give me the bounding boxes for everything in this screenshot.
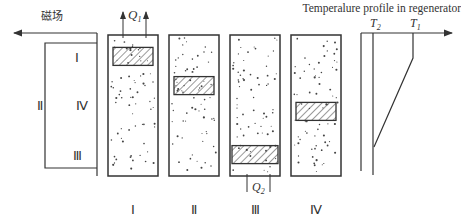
porous-particle	[323, 45, 325, 47]
porous-particle	[243, 60, 244, 61]
porous-particle	[334, 60, 335, 61]
porous-particle	[209, 97, 210, 98]
porous-particle	[130, 168, 132, 170]
porous-particle	[336, 61, 337, 62]
porous-particle	[113, 87, 115, 89]
porous-particle	[178, 161, 180, 163]
porous-particle	[264, 170, 265, 171]
porous-particle	[154, 126, 155, 127]
porous-particle	[319, 77, 320, 78]
porous-particle	[236, 107, 237, 108]
porous-particle	[232, 169, 234, 171]
porous-particle	[247, 51, 249, 53]
porous-particle	[260, 126, 261, 127]
porous-particle	[182, 137, 183, 138]
porous-particle	[248, 126, 250, 128]
porous-particle	[236, 123, 238, 125]
porous-particle	[312, 156, 314, 158]
porous-particle	[120, 90, 122, 92]
porous-particle	[276, 39, 277, 40]
porous-particle	[318, 62, 320, 64]
porous-particle	[196, 66, 198, 68]
porous-particle	[335, 69, 337, 71]
porous-particle	[240, 47, 241, 48]
loop-label-left: Ⅱ	[37, 98, 43, 113]
porous-particle	[255, 123, 256, 124]
porous-particle	[332, 67, 333, 68]
porous-particle	[243, 69, 245, 71]
regenerator-column-1: Ⅰ	[108, 35, 158, 217]
porous-particle	[204, 99, 206, 101]
porous-particle	[115, 97, 117, 99]
regenerator-column-4: Ⅳ	[291, 35, 341, 217]
porous-particle	[114, 162, 115, 163]
porous-particle	[114, 40, 116, 42]
porous-particle	[326, 41, 327, 42]
porous-particle	[315, 93, 317, 95]
porous-particle	[269, 166, 270, 167]
porous-particle	[191, 107, 193, 109]
porous-particle	[297, 142, 299, 144]
porous-particle	[204, 162, 206, 164]
porous-particle	[182, 44, 183, 45]
magnetic-refrigeration-cycle-diagram: 磁场 Ⅰ Ⅱ Ⅳ Ⅲ ⅠⅡⅢⅣ Q1 Q2 Temperalure profil…	[0, 0, 461, 223]
porous-particle	[327, 50, 328, 51]
porous-particle	[210, 165, 211, 166]
porous-particle	[173, 110, 174, 111]
column-outline	[169, 35, 219, 176]
porous-particle	[150, 109, 152, 111]
porous-particle	[329, 141, 330, 142]
porous-particle	[192, 154, 193, 155]
porous-particle	[172, 121, 173, 122]
porous-particle	[309, 92, 311, 94]
porous-particle	[132, 96, 134, 98]
porous-particle	[185, 121, 186, 122]
porous-particle	[314, 164, 316, 166]
porous-particle	[112, 164, 114, 166]
magnetocaloric-block	[113, 47, 153, 65]
porous-particle	[305, 121, 306, 122]
porous-particle	[311, 148, 313, 150]
porous-particle	[238, 39, 240, 41]
porous-particle	[294, 144, 295, 145]
porous-particle	[304, 71, 305, 72]
porous-particle	[117, 133, 119, 135]
porous-particle	[135, 82, 136, 83]
porous-particle	[204, 108, 206, 110]
porous-particle	[267, 75, 269, 77]
porous-particle	[274, 78, 276, 80]
porous-particle	[293, 93, 295, 95]
porous-particle	[154, 98, 155, 99]
porous-particle	[314, 148, 316, 150]
porous-particle	[140, 75, 141, 76]
porous-particle	[203, 51, 205, 53]
porous-particle	[114, 156, 116, 158]
porous-particle	[242, 114, 244, 116]
porous-particle	[206, 131, 207, 132]
porous-particle	[236, 98, 237, 99]
porous-particle	[257, 77, 259, 79]
porous-particle	[321, 149, 323, 151]
porous-particle	[255, 48, 257, 50]
porous-particle	[111, 81, 112, 82]
porous-particle	[206, 133, 207, 134]
porous-particle	[214, 120, 215, 121]
porous-particle	[121, 138, 122, 139]
porous-particle	[272, 130, 274, 132]
porous-particle	[315, 75, 316, 76]
porous-particle	[182, 120, 184, 122]
porous-particle	[132, 44, 133, 45]
porous-particle	[177, 135, 179, 137]
porous-particle	[273, 50, 274, 51]
porous-particle	[130, 156, 132, 158]
porous-particle	[175, 59, 177, 61]
porous-particle	[309, 64, 310, 65]
porous-particle	[110, 86, 112, 88]
porous-particle	[233, 62, 234, 63]
porous-particle	[294, 72, 296, 74]
porous-particle	[193, 97, 195, 99]
porous-particle	[254, 46, 255, 47]
loop-label-top: Ⅰ	[75, 50, 79, 65]
loop-label-bottom: Ⅲ	[73, 148, 82, 163]
porous-particle	[144, 85, 145, 86]
